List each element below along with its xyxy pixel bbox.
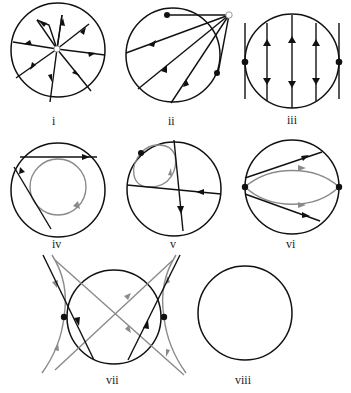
left-hyperbola	[42, 255, 65, 373]
panel-viii: viii	[198, 266, 292, 387]
panel-label-iv: iv	[52, 237, 61, 251]
fixed-point-top	[164, 12, 170, 18]
panel-i: i	[11, 3, 105, 128]
fixed-point-left	[242, 59, 249, 66]
panel-label-v: v	[170, 237, 176, 251]
panel-label-i: i	[52, 114, 56, 128]
panel-label-iii: iii	[287, 113, 298, 127]
fixed-point-left	[242, 184, 248, 190]
disk-boundary	[245, 140, 339, 234]
panel-label-vi: vi	[286, 237, 296, 251]
panel-ii: ii	[126, 8, 232, 128]
fixed-point-right	[336, 59, 343, 66]
panel-label-ii: ii	[168, 114, 175, 128]
fixed-point-left	[61, 314, 67, 320]
fixed-point-right	[336, 184, 342, 190]
radial-rays	[13, 15, 105, 102]
panel-iv: iv	[11, 143, 105, 251]
panel-v: v	[127, 140, 221, 251]
panel-vi: vi	[242, 140, 342, 251]
panel-label-viii: viii	[235, 373, 252, 387]
fixed-point-right	[161, 314, 167, 320]
fixed-point	[138, 150, 144, 156]
lower-arc	[245, 187, 339, 204]
disk-boundary	[198, 266, 292, 360]
fixed-point-right	[214, 70, 220, 76]
panel-vii: vii	[42, 255, 186, 387]
source-point	[54, 46, 60, 52]
panel-iii: iii	[242, 14, 343, 127]
figure-canvas: i ii	[0, 0, 351, 393]
panel-label-vii: vii	[106, 373, 119, 387]
external-source-point	[226, 12, 232, 18]
